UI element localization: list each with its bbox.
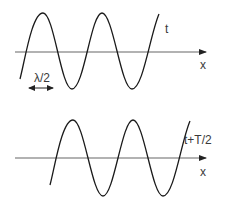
bottom-panel: t+T/2 x [15, 120, 212, 196]
axis-label-x-bottom: x [200, 165, 206, 179]
axis-label-x-top: x [200, 58, 206, 72]
top-panel: t x λ/2 [15, 13, 206, 89]
time-label-bottom: t+T/2 [184, 133, 212, 147]
wave-diagram: t x λ/2 t+T/2 x [0, 0, 228, 212]
wavelength-label: λ/2 [34, 71, 50, 85]
time-label-top: t [165, 22, 169, 36]
